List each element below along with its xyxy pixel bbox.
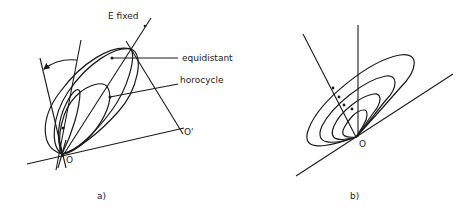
arrow-marker [351,108,354,111]
label-equidistant: equidistant [182,53,233,63]
arrow-marker [332,87,335,90]
baseline-b [296,74,453,176]
label-origin-prime: O' [184,127,194,137]
arrow-marker [62,127,65,130]
rotation-arrow-icon [44,60,77,69]
baseline-a [27,128,184,164]
label-horocycle: horocycle [180,75,224,85]
panel-a: E fixed equidistant horocycle O O' a) [27,11,233,201]
figure: E fixed equidistant horocycle O O' a) O … [0,0,475,212]
label-origin-a: O [66,155,73,165]
label-e-fixed: E fixed [108,11,139,21]
arrow-marker [338,96,341,99]
label-origin-b: O [359,139,366,149]
e-fixed-line [62,18,151,157]
line-to-o-prime [126,41,183,134]
caption-b: b) [350,191,359,201]
arrow-marker [144,25,147,28]
arrow-marker [343,104,346,107]
horocycle-leader [110,84,178,97]
panel-b: O b) [296,25,453,201]
nested-curve-4 [343,110,367,137]
caption-a: a) [97,191,106,201]
